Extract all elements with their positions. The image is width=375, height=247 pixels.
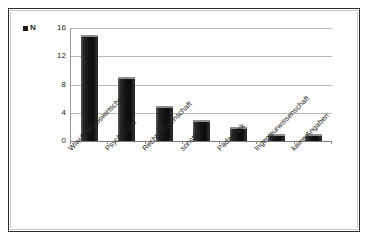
x-axis-tick — [70, 141, 71, 144]
x-axis-tick — [219, 141, 220, 144]
x-axis-tick — [107, 141, 108, 144]
x-axis-category-labels: Wiwi/BetriebswirtschaftPsychologieRechts… — [9, 9, 375, 247]
chart-frame: N 0481216 Wiwi/BetriebswirtschaftPsychol… — [8, 8, 360, 232]
x-axis-category-label: sonstige — [179, 127, 204, 152]
x-axis-category-label: Pädagogik — [216, 122, 247, 153]
chart-figure: N 0481216 Wiwi/BetriebswirtschaftPsychol… — [0, 0, 375, 247]
x-axis-category-label: Psychologie — [104, 118, 138, 152]
x-axis-tick — [331, 141, 332, 144]
x-axis-category-label: keine Angaben — [290, 112, 331, 153]
x-axis-tick — [182, 141, 183, 144]
x-axis-tick — [256, 141, 257, 144]
x-axis-tick — [145, 141, 146, 144]
x-axis-tick — [294, 141, 295, 144]
